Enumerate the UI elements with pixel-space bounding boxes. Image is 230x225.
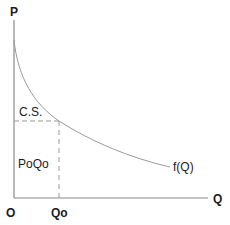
y-axis-label: P — [10, 5, 18, 19]
diagram-canvas: P C.S. PoQo f(Q) Q O Qo — [0, 0, 230, 225]
origin-label: O — [6, 206, 15, 220]
expenditure-label: PoQo — [18, 157, 49, 171]
demand-curve — [14, 40, 170, 167]
x-axis-label: Q — [213, 192, 222, 206]
quantity-marker-label: Qo — [51, 206, 68, 220]
consumer-surplus-label: C.S. — [19, 105, 42, 119]
curve-label: f(Q) — [173, 160, 194, 174]
